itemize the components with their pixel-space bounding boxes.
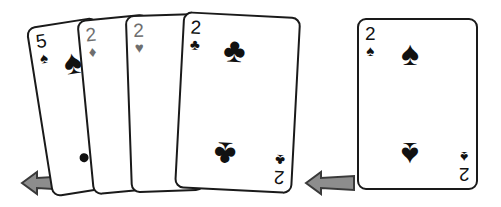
- club-icon: ♣: [275, 154, 286, 168]
- corner-index-top-left: 2 ♥: [133, 22, 145, 55]
- card-rank: 2: [459, 165, 470, 183]
- club-icon: ♣: [190, 38, 201, 52]
- card-2-of-spades[interactable]: 2 ♠ ♠ ♠ 2 ♠: [357, 18, 478, 190]
- card-rank: 2: [274, 168, 286, 187]
- left-arrow-icon: [304, 168, 356, 198]
- corner-index-top-left: 2 ♠: [365, 25, 376, 58]
- heart-icon: ♥: [135, 41, 144, 55]
- corner-index-top-left: 5 ♠: [35, 32, 51, 66]
- card-2-of-clubs[interactable]: 2 ♣ ♣ ♣ 2 ♣: [174, 11, 301, 194]
- club-icon: ♣: [213, 137, 237, 172]
- left-arrow-icon-single: [304, 168, 356, 202]
- spade-icon: ♠: [366, 44, 374, 58]
- spade-icon: ♠: [401, 138, 419, 172]
- diamond-icon: ♦: [88, 45, 97, 59]
- corner-index-bottom-right: 2 ♠: [459, 150, 470, 183]
- spade-icon: ♠: [39, 51, 49, 66]
- spade-icon: ♠: [461, 150, 469, 164]
- corner-index-bottom-right: 2 ♣: [274, 154, 286, 187]
- spade-icon: [79, 153, 89, 163]
- card-rank: 2: [190, 19, 202, 38]
- club-icon: ♣: [223, 32, 247, 67]
- card-rank: 2: [365, 25, 376, 43]
- card-rank: 2: [133, 22, 144, 40]
- corner-index-top-left: 2 ♣: [189, 19, 201, 52]
- spade-icon: ♠: [401, 36, 419, 70]
- corner-index-top-left: 2 ♦: [85, 25, 99, 58]
- card-illustration-scene: 5 ♠ ♠ 2 ♦ 2 ♥ 2 ♣ ♣ ♣: [0, 0, 501, 207]
